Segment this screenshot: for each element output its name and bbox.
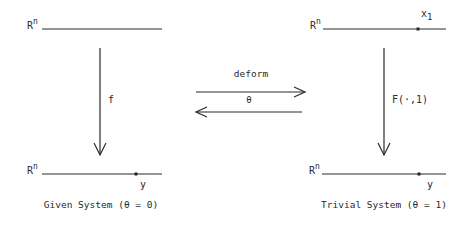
deform-label: deform: [234, 69, 268, 79]
space-exponent: n: [33, 17, 38, 26]
right-map-arrow: [378, 48, 390, 155]
left-y-point: [134, 172, 138, 176]
theta-label: θ: [246, 96, 251, 105]
space-exponent: n: [316, 17, 321, 26]
left-bottom-space-label: Rn: [27, 166, 38, 176]
right-map-label: F(·,1): [392, 95, 428, 105]
left-caption: Given System (θ = 0): [44, 200, 158, 210]
space-exponent: n: [315, 162, 320, 171]
right-x1-point: [417, 28, 420, 31]
right-point-label: y: [427, 180, 433, 190]
right-caption: Trivial System (θ = 1): [321, 200, 447, 210]
left-map-arrow: [94, 48, 106, 155]
right-y-point: [417, 172, 421, 176]
space-exponent: n: [33, 162, 38, 171]
diagram-canvas: [0, 0, 470, 228]
deform-backward-arrow: [196, 107, 302, 117]
left-point-label: y: [140, 180, 146, 190]
point-subscript: 1: [427, 12, 432, 22]
left-map-label: f: [108, 95, 114, 105]
right-bottom-space-label: Rn: [309, 166, 320, 176]
right-top-space-label: Rn: [310, 21, 321, 31]
left-top-space-label: Rn: [27, 21, 38, 31]
right-x1-label: x1: [421, 9, 432, 19]
